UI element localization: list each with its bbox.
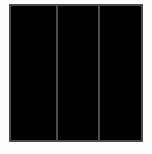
figure-canvas (0, 0, 152, 154)
figure-group (10, 5, 142, 141)
panel-middle (58, 6, 98, 140)
panel-left (11, 6, 56, 140)
three-panel-rectangle-figure (0, 0, 152, 154)
panel-right (100, 6, 142, 140)
